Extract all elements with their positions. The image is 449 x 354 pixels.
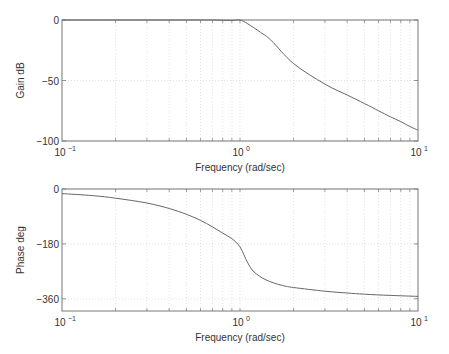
x-tick-exponent: 1 (424, 145, 428, 152)
y-axis-label: Phase deg (15, 226, 26, 274)
y-tick-label: −180 (36, 239, 59, 250)
x-tick-label: 10 (54, 147, 66, 158)
x-axis-label: Frequency (rad/sec) (195, 332, 284, 343)
y-tick-label: −360 (36, 294, 59, 305)
x-tick-exponent: 0 (246, 145, 250, 152)
x-tick-label: 10 (232, 147, 244, 158)
x-tick-label: 10 (410, 147, 422, 158)
y-tick-label: 0 (53, 15, 59, 26)
y-tick-label: 0 (53, 184, 59, 195)
x-tick-label: 10 (54, 317, 66, 328)
x-tick-exponent: −1 (68, 315, 76, 322)
x-tick-label: 10 (410, 317, 422, 328)
x-tick-label: 10 (232, 317, 244, 328)
x-tick-exponent: −1 (68, 145, 76, 152)
x-axis-label: Frequency (rad/sec) (195, 162, 284, 173)
bode-plot: 0−50−10010−1100101Frequency (rad/sec)Gai… (0, 0, 449, 354)
y-tick-label: −100 (36, 136, 59, 147)
x-tick-exponent: 0 (246, 315, 250, 322)
x-tick-exponent: 1 (424, 315, 428, 322)
gain-axes: 0−50−10010−1100101Frequency (rad/sec)Gai… (15, 15, 428, 173)
y-tick-label: −50 (42, 76, 59, 87)
phase-axes: 0−180−36010−1100101Frequency (rad/sec)Ph… (15, 184, 428, 343)
phase-curve (62, 194, 418, 297)
y-axis-label: Gain dB (15, 62, 26, 98)
